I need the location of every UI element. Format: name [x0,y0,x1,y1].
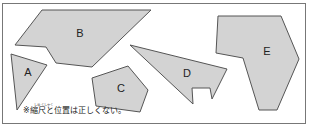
shape-c-label: C [117,82,125,94]
shape-b: B [15,10,151,67]
scale-position-note: ※縮尺と位置は正しくない。 [23,107,126,115]
shape-e-label: E [263,45,270,57]
shape-e: E [216,16,299,110]
shape-a-label: A [24,66,32,78]
shape-d-label: D [183,67,191,79]
shape-b-label: B [76,27,83,39]
